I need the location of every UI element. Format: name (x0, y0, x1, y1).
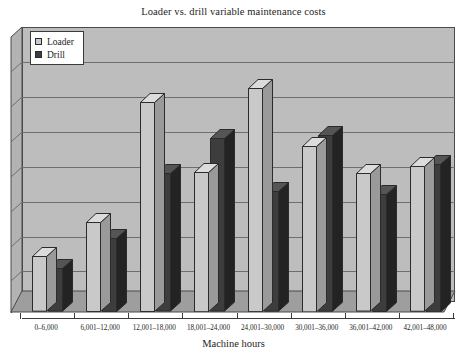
x-tick-label-1: 6,001–12,000 (73, 324, 127, 332)
legend-swatch-loader-icon (35, 38, 42, 45)
x-tick-label-4: 24,001–30,000 (236, 324, 290, 332)
x-tick-6 (345, 313, 346, 319)
legend-label-drill: Drill (47, 50, 65, 60)
x-tick-3 (182, 313, 183, 319)
x-axis-title: Machine hours (0, 338, 467, 349)
x-tick-label-7: 42,001–48,000 (398, 324, 452, 332)
x-tick-end (453, 313, 454, 319)
legend-item-loader: Loader (35, 35, 74, 48)
x-tick-label-0: 0–6,000 (19, 324, 73, 332)
x-tick-label-5: 30,001–36,000 (290, 324, 344, 332)
legend-label-loader: Loader (47, 37, 74, 47)
x-tick-label-3: 18,001–24,000 (181, 324, 235, 332)
bar-loader-3 (194, 163, 219, 312)
x-tick-0 (20, 313, 21, 319)
chart-legend: Loader Drill (30, 31, 84, 65)
bar-loader-5 (302, 137, 327, 312)
bar-loader-2 (140, 93, 165, 312)
x-tick-5 (291, 313, 292, 319)
bar-loader-0 (32, 247, 57, 312)
chart-figure: Loader vs. drill variable maintenance co… (0, 0, 467, 364)
bar-loader-7 (410, 157, 435, 312)
legend-swatch-drill-icon (35, 51, 42, 58)
x-tick-4 (237, 313, 238, 319)
x-tick-2 (128, 313, 129, 319)
x-axis-line (22, 318, 455, 319)
x-tick-label-6: 36,001–42,000 (344, 324, 398, 332)
bar-loader-1 (86, 213, 111, 312)
x-tick-7 (399, 313, 400, 319)
legend-item-drill: Drill (35, 48, 74, 61)
x-tick-label-2: 12,001–18,000 (127, 324, 181, 332)
bar-loader-4 (248, 79, 273, 312)
x-tick-1 (74, 313, 75, 319)
bar-loader-6 (356, 164, 381, 312)
